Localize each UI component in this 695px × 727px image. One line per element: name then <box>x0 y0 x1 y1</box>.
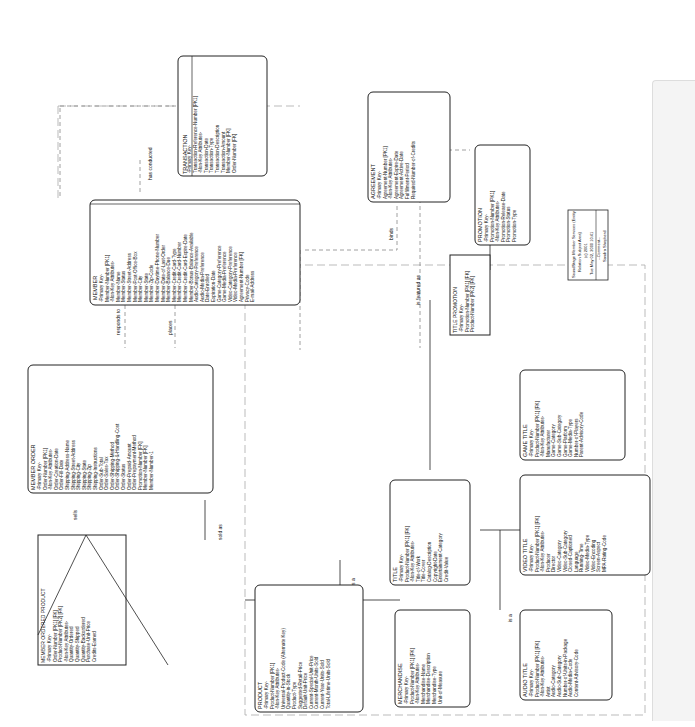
entity-attribute: Number-of-Units-in-Package <box>563 638 568 697</box>
entity-attribute: Member-Number [FK] <box>226 129 231 173</box>
entity-name: TITLE PROMOTION <box>452 287 458 333</box>
entity-attribute: Game-Platform <box>563 426 568 457</box>
entity-attribute: Transaction-Description <box>215 124 220 173</box>
entity-attribute: Purchase-Unit-Price <box>86 620 91 662</box>
entity-attribute: -Primary Key- <box>47 633 52 662</box>
entity-attribute: Quantity-Backordered <box>81 617 86 662</box>
entity-attribute: Product-Number [PK1] [FK] <box>535 641 540 697</box>
entity-attribute: MPA-Rating-Code <box>602 535 607 572</box>
entity-attribute: -Primary Key- <box>529 428 534 457</box>
entity-attribute: Entertainment-Category <box>438 533 443 582</box>
entity-attribute: Member-Number [PK1] <box>105 255 110 302</box>
entity-attribute: Credits-Earned <box>92 631 97 662</box>
entity-merchandise[interactable]: MERCHANDISE -Primary Key-Product-Number … <box>395 610 470 707</box>
entity-name: MEMBER ORDER <box>30 444 36 490</box>
entity-attribute: Video-Category-Preference <box>228 246 233 302</box>
entity-attribute: Language <box>574 551 579 572</box>
entity-transaction[interactable]: TRANSACTION -Primary Key-Transaction-Ref… <box>178 56 267 176</box>
entity-attribute: E-mail-Address <box>250 270 255 302</box>
entity-attribute: Transaction-Type <box>209 137 214 173</box>
entity-attribute: Product-Number [PK2] [FK] <box>58 606 63 662</box>
entity-attribute: Member-Number [FK] <box>143 446 148 490</box>
entity-attribute: Member-State <box>144 272 149 302</box>
entity-name: PRODUCT <box>257 681 263 709</box>
entity-attribute: Copyright-Date <box>433 551 438 582</box>
entity-attribute: -Primary Key- <box>484 213 489 242</box>
entity-attribute: Unit-of-Measure <box>438 671 443 704</box>
entity-agreement[interactable]: AGREEMENT -Primary Key-Agreement-Number … <box>368 92 450 202</box>
entity-attribute: Screen-Aspect <box>596 541 601 572</box>
entity-attribute: -Non-Key Attributes- <box>388 157 393 199</box>
entity-attribute: Member-Zip-Code <box>149 264 154 302</box>
entity-attribute: Quantity-Ordered <box>69 626 74 662</box>
entity-attribute: Running-Time <box>579 543 584 572</box>
entity-attribute: -Primary Key- <box>529 543 534 572</box>
entity-attribute: -Primary Key- <box>459 303 464 332</box>
entity-attribute: Product-Type <box>292 681 297 709</box>
rel-label-sells: sells <box>72 509 78 520</box>
entity-member-ordered-product[interactable]: MEMBER ORDERED PRODUCT -Primary Key-Orde… <box>38 535 168 665</box>
entity-attribute: -Primary Key- <box>404 675 409 704</box>
entity-attribute: Shipping-City <box>76 462 81 490</box>
entity-name: VIDEO TITLE <box>522 538 528 572</box>
entity-attribute: Promotion-Status <box>506 206 511 242</box>
entity-attribute: Member-Status <box>121 270 126 302</box>
entity-attribute: -Primary Key- <box>377 170 382 199</box>
entity-attribute: -Non-Key Attributes- <box>48 448 53 490</box>
entity-attribute: Video-Media-Type <box>585 534 590 572</box>
diagram-info-box: SoundStage Member Services (Entity Relat… <box>568 210 608 280</box>
entity-attribute: -Non-Key Attributes- <box>198 131 203 173</box>
entity-attribute: Total-Lifetime-Units-Sold <box>326 659 331 709</box>
rel-label-is-featured-as: is featured as <box>415 274 421 305</box>
entity-game-title[interactable]: GAME TITLE -Primary Key-Product-Number [… <box>520 370 625 460</box>
entity-attribute: Game-Media-Preference <box>222 251 227 302</box>
entity-name: MEMBER ORDERED PRODUCT <box>40 589 46 663</box>
entity-attribute: Member-Post-Office-Box <box>133 251 138 302</box>
entity-member-order[interactable]: MEMBER ORDER -Primary Key-Order-Number [… <box>28 365 213 493</box>
entity-promotion[interactable]: PROMOTION -Primary Key-Promotion-Number … <box>475 145 530 245</box>
entity-audio-title[interactable]: AUDIO TITLE -Primary Key-Product-Number … <box>520 610 612 700</box>
rel-label-binds: binds <box>388 228 394 240</box>
entity-attribute: Shipping-Street-Address <box>71 439 76 490</box>
entity-name: MEMBER <box>92 276 98 300</box>
entity-attribute: Order-Shipping-&-Handling-Cost <box>115 423 120 490</box>
entity-title[interactable]: TITLE -Primary Key-Product-Number [PK1] … <box>390 480 470 585</box>
entity-attribute: Agreement-Number [PK1] <box>383 146 388 199</box>
entity-attribute: Order-Fill-Date <box>59 459 64 490</box>
entity-attribute: Current-Year-Units-Sold <box>320 660 325 709</box>
info-comment-label: --Comment-- <box>596 237 601 260</box>
entity-attribute: Audio-Media-Code <box>568 658 573 697</box>
entity-video-title[interactable]: VIDEO TITLE -Primary Key-Product-Number … <box>520 475 650 575</box>
info-line-2: Relation Subject Area) <box>577 232 582 272</box>
entity-attribute: Shipping-Instructions <box>93 446 98 490</box>
entity-attribute: Order-Prepayment-Method <box>132 435 137 490</box>
entity-attribute: Product-Number [PK2] [FK] <box>470 276 475 332</box>
entity-attribute: -Primary Key- <box>99 273 104 302</box>
entity-attribute: Video-Encoding <box>591 539 596 572</box>
entity-attribute: -Primary Key- <box>264 680 269 709</box>
entity-attribute: -Primary Key- <box>37 461 42 490</box>
entity-title-promotion[interactable]: TITLE PROMOTION -Primary Key-Promotion-N… <box>450 255 490 335</box>
entity-attribute: Manufacturer <box>546 429 551 457</box>
info-line-3: (c) 2001 <box>583 243 588 258</box>
entity-attribute: -Non-Key Attributes- <box>410 540 415 582</box>
entity-attribute: Order-Sub-Total <box>99 457 104 490</box>
entity-attribute: Promotion-Number [PK1] [FK] <box>465 271 470 332</box>
entity-attribute: Required-Number-of-Credits <box>411 140 416 199</box>
entity-attribute: Member-Name <box>116 271 121 302</box>
entity-attribute: -Non-Key Attributes- <box>540 530 545 572</box>
entity-attribute: Audio-Category-Preference <box>194 246 199 302</box>
entity-attribute: Order-Shipping-Method <box>110 442 115 490</box>
entity-attribute: Closed-Captioned <box>568 535 573 572</box>
entity-attribute: Product-Number [PK1] [FK] <box>535 516 540 572</box>
entity-attribute: Video-Category <box>557 539 562 572</box>
entity-product[interactable]: PRODUCT -Primary Key-Product-Number [PK1… <box>255 585 363 712</box>
rel-label-responds-to: responds to <box>115 309 121 335</box>
entity-member[interactable]: MEMBER -Primary Key-Member-Number [PK1]-… <box>90 200 300 305</box>
entity-attribute: Transaction-Reference-Number [PK1] <box>193 96 198 173</box>
side-panel <box>652 80 695 721</box>
entity-attribute: Agreement-Number [FK] <box>239 252 244 302</box>
entity-attribute: Expiration-Date <box>211 270 216 302</box>
entity-attribute: Promotion-Release-Date <box>501 191 506 242</box>
entity-attribute: Order-Number [PK1] <box>43 448 48 490</box>
